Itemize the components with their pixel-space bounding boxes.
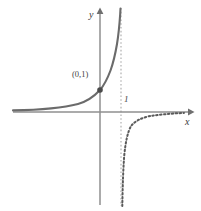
y-axis-label: y: [89, 10, 93, 20]
asymptote-tick-label: 1: [124, 95, 129, 104]
x-axis-label: x: [185, 117, 189, 127]
x-axis-arrowhead: [188, 109, 195, 116]
y-axis-arrowhead: [97, 8, 104, 15]
y-intercept-point-marker: [97, 87, 103, 93]
graph-figure: y x (0,1) 1: [0, 0, 201, 211]
plot-canvas: [0, 0, 201, 211]
y-intercept-label: (0,1): [72, 70, 88, 79]
dotted-curve-right-branch: [122, 113, 184, 206]
solid-curve-left-branch: [13, 9, 121, 111]
